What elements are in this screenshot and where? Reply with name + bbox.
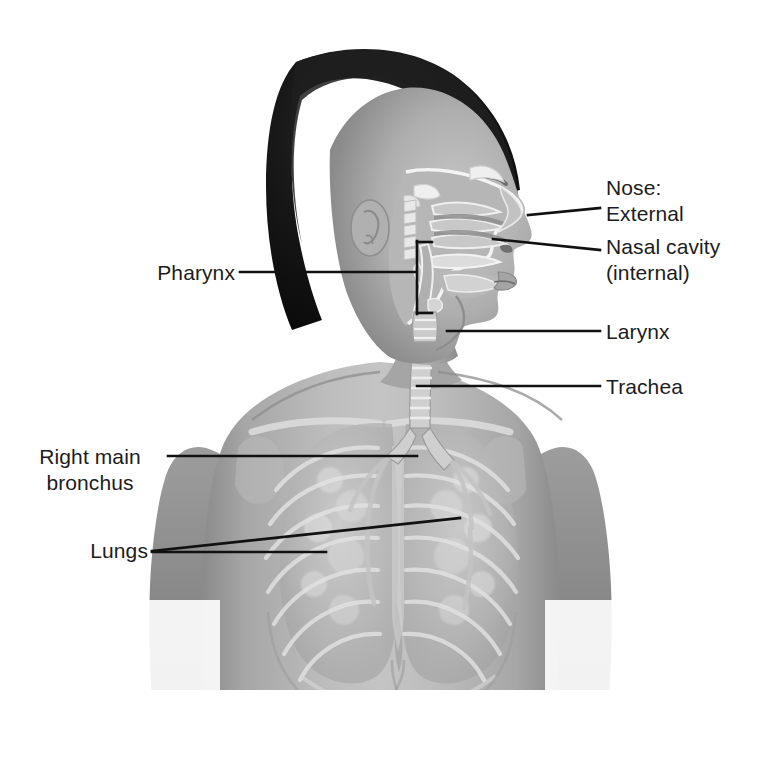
bottom-white-band — [0, 690, 761, 783]
label-nasal-cavity-sub: (internal) — [606, 260, 690, 286]
label-pharynx: Pharynx — [60, 260, 235, 286]
label-nasal-cavity: Nasal cavity — [606, 234, 720, 260]
cervical-vertebrae — [404, 200, 416, 260]
head-group — [266, 49, 532, 365]
label-trachea: Trachea — [606, 374, 683, 400]
label-right-main-bronchus-line1: Right main — [15, 444, 165, 470]
label-larynx: Larynx — [606, 319, 670, 345]
anatomy-figure: Nose: External Nasal cavity (internal) P… — [0, 0, 761, 783]
label-nose-external: External — [606, 201, 684, 227]
nasal-conchae — [430, 203, 506, 249]
epiglottis — [428, 298, 442, 312]
ear — [351, 200, 389, 256]
scapula-left — [232, 436, 284, 504]
label-nose-heading: Nose: — [606, 175, 661, 201]
label-right-main-bronchus-line2: bronchus — [15, 470, 165, 496]
label-lungs: Lungs — [0, 538, 148, 564]
larynx — [413, 312, 438, 342]
